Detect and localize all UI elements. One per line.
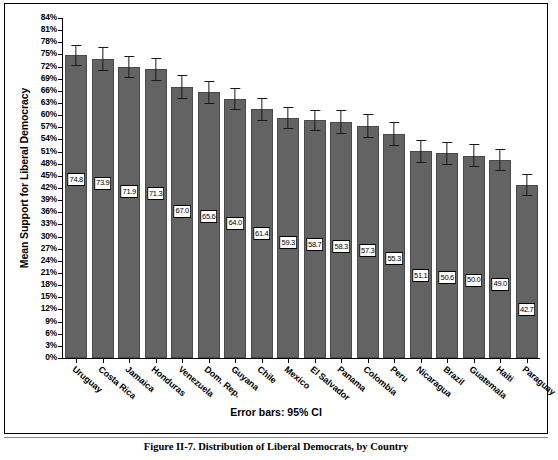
- bar-value-label: 67.0: [173, 205, 191, 218]
- error-bar-note: Error bars: 95% CI: [5, 406, 547, 418]
- bar[interactable]: [118, 67, 140, 358]
- bar-value-label: 49.0: [491, 278, 509, 291]
- bar-value-label: 58.7: [306, 238, 324, 251]
- y-axis-tick-label: 24%: [41, 255, 57, 265]
- bar-group[interactable]: 73.9: [90, 18, 117, 358]
- bar[interactable]: [383, 134, 405, 358]
- y-axis-tick-label: 81%: [41, 24, 57, 34]
- bar-group[interactable]: 58.7: [302, 18, 329, 358]
- error-bar: [129, 56, 130, 78]
- error-bar: [261, 98, 262, 121]
- error-bar: [208, 81, 209, 104]
- bar[interactable]: [92, 59, 114, 358]
- bar[interactable]: [145, 69, 167, 358]
- error-bar: [526, 174, 527, 196]
- y-axis-tick-label: 39%: [41, 194, 57, 204]
- plot-area: 0%3%6%9%12%15%18%21%24%27%30%33%36%39%42…: [62, 18, 540, 359]
- x-axis-tick-mark: [76, 358, 77, 363]
- y-axis-tick-label: 3%: [45, 340, 57, 350]
- error-bar-cap-bottom: [204, 103, 214, 104]
- bar-group[interactable]: 67.0: [169, 18, 196, 358]
- error-bar-cap-top: [231, 88, 241, 89]
- y-axis-tick-label: 9%: [45, 316, 57, 326]
- y-axis-tick-label: 33%: [41, 218, 57, 228]
- error-bar: [394, 122, 395, 145]
- error-bar-cap-top: [337, 110, 347, 111]
- y-axis-tick-label: 78%: [41, 36, 57, 46]
- error-bar-cap-top: [310, 110, 320, 111]
- bar-value-label: 65.6: [200, 210, 218, 223]
- error-bar: [473, 144, 474, 167]
- bar-group[interactable]: 49.0: [487, 18, 514, 358]
- error-bar-cap-bottom: [151, 80, 161, 81]
- y-axis-tick-label: 21%: [41, 267, 57, 277]
- bar-group[interactable]: 50.0: [461, 18, 488, 358]
- y-axis-tick-mark: [58, 358, 63, 359]
- bar-group[interactable]: 58.3: [328, 18, 355, 358]
- y-axis-tick-label: 72%: [41, 61, 57, 71]
- x-axis-tick-mark: [527, 358, 528, 363]
- bar-group[interactable]: 61.4: [249, 18, 276, 358]
- bar[interactable]: [516, 185, 538, 358]
- y-axis-tick-label: 60%: [41, 109, 57, 119]
- y-axis-tick-label: 36%: [41, 206, 57, 216]
- x-axis-category-label: Haiti: [494, 364, 515, 384]
- bar[interactable]: [436, 153, 458, 358]
- error-bar: [235, 88, 236, 111]
- error-bar-cap-bottom: [443, 164, 453, 165]
- bar-group[interactable]: 64.0: [222, 18, 249, 358]
- x-axis-tick-mark: [103, 358, 104, 363]
- error-bar-cap-top: [151, 58, 161, 59]
- bar-group[interactable]: 55.3: [381, 18, 408, 358]
- error-bar-cap-top: [257, 98, 267, 99]
- bar-group[interactable]: 65.6: [196, 18, 223, 358]
- error-bar-cap-bottom: [257, 120, 267, 121]
- x-axis-tick-mark: [394, 358, 395, 363]
- x-axis-tick-mark: [235, 358, 236, 363]
- error-bar-cap-bottom: [522, 195, 532, 196]
- bar-group[interactable]: 71.3: [142, 18, 169, 358]
- error-bar: [182, 75, 183, 99]
- x-axis-tick-mark: [500, 358, 501, 363]
- bar[interactable]: [171, 87, 193, 358]
- y-axis-tick-label: 12%: [41, 303, 57, 313]
- caption-divider: [4, 437, 548, 438]
- error-bar: [76, 45, 77, 66]
- x-axis-tick-mark: [447, 358, 448, 363]
- bar-group[interactable]: 74.8: [63, 18, 90, 358]
- x-axis-tick-mark: [368, 358, 369, 363]
- bar[interactable]: [410, 151, 432, 358]
- y-axis-tick-label: 45%: [41, 170, 57, 180]
- error-bar-cap-top: [496, 149, 506, 150]
- error-bar: [341, 110, 342, 133]
- bar-group[interactable]: 51.1: [408, 18, 435, 358]
- bar-group[interactable]: 71.9: [116, 18, 143, 358]
- bar-group[interactable]: 42.7: [514, 18, 541, 358]
- x-axis-category-label: Mexico: [282, 364, 311, 391]
- chart-frame: Mean Support for Liberal Democracy 0%3%6…: [4, 3, 548, 434]
- bar[interactable]: [489, 160, 511, 358]
- x-axis-tick-mark: [288, 358, 289, 363]
- error-bar-cap-bottom: [72, 65, 82, 66]
- x-axis-tick-mark: [474, 358, 475, 363]
- error-bar-cap-top: [98, 47, 108, 48]
- bar-group[interactable]: 59.3: [275, 18, 302, 358]
- bar-group[interactable]: 50.6: [434, 18, 461, 358]
- y-axis-tick-label: 48%: [41, 158, 57, 168]
- x-axis-tick-mark: [315, 358, 316, 363]
- x-axis-tick-mark: [209, 358, 210, 363]
- bar-group[interactable]: 57.3: [355, 18, 382, 358]
- error-bar: [155, 58, 156, 81]
- bar[interactable]: [357, 126, 379, 358]
- y-axis-tick-label: 84%: [41, 12, 57, 22]
- error-bar-cap-top: [178, 75, 188, 76]
- error-bar: [447, 142, 448, 165]
- bar-value-label: 51.1: [412, 269, 430, 282]
- bar[interactable]: [463, 156, 485, 358]
- bar-value-label: 59.3: [279, 236, 297, 249]
- bar[interactable]: [198, 92, 220, 358]
- y-axis-tick-label: 15%: [41, 291, 57, 301]
- error-bar-cap-top: [363, 114, 373, 115]
- bar[interactable]: [65, 55, 87, 358]
